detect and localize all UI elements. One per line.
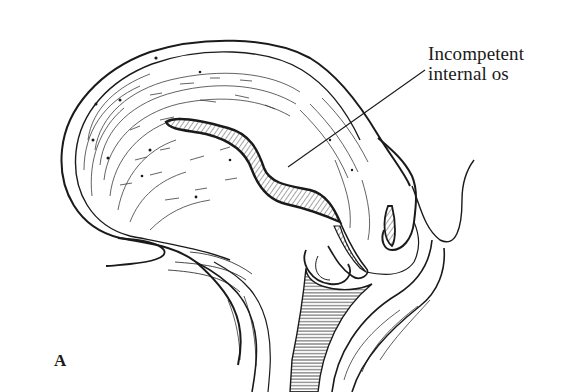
vaginal-wall-left-inner [214, 262, 270, 392]
uterine-cavity [166, 119, 340, 222]
panel-label: A [54, 351, 66, 371]
posterior-vaginal-wall [332, 240, 432, 392]
peritoneal-curve [412, 160, 474, 242]
anterior-fold-texture [168, 252, 252, 292]
uterus-outer-outline [61, 41, 410, 365]
figure-canvas: Incompetent internal os A [0, 0, 579, 392]
fornix-slit [385, 206, 395, 246]
myometrium-boundary [75, 52, 360, 260]
cervical-canal [334, 226, 366, 272]
annotation-incompetent-internal-os: Incompetent internal os [428, 44, 524, 84]
annotation-line-1: Incompetent [428, 44, 524, 64]
anterior-lip [316, 256, 330, 280]
vaginal-wall-left [196, 262, 257, 392]
anterior-fold [106, 238, 165, 266]
posterior-fornix [378, 138, 416, 250]
annotation-line-2: internal os [428, 64, 524, 84]
